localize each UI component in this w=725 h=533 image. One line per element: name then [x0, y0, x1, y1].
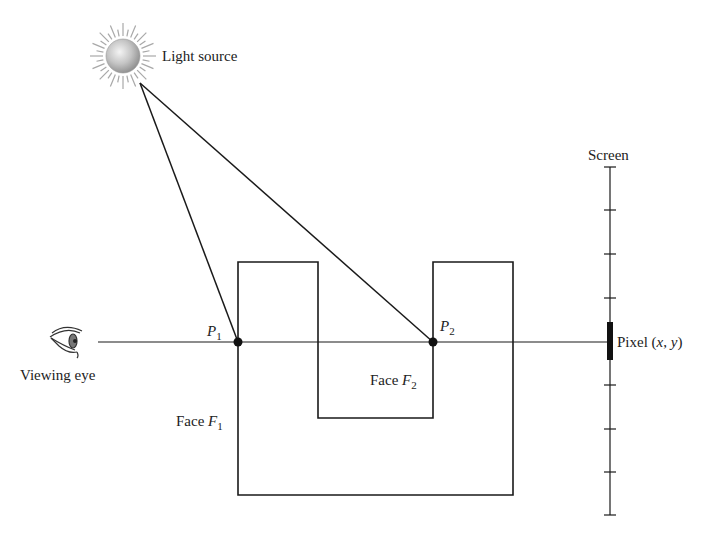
p1-label: P1: [206, 323, 222, 342]
shadow-ray-p1: [140, 83, 238, 342]
face-f2-label: Face F2: [370, 372, 417, 391]
ray-tracing-diagram: Light source P1 P2 Face F1 Face F2 Viewi…: [0, 0, 725, 533]
point-p1: [234, 338, 243, 347]
point-p2: [429, 338, 438, 347]
light-source-label: Light source: [162, 48, 238, 64]
light-source-icon: [90, 23, 156, 89]
eye-icon: [50, 327, 82, 358]
viewing-eye-label: Viewing eye: [20, 367, 96, 383]
screen-label: Screen: [588, 147, 629, 163]
pixel-marker: [607, 322, 613, 360]
shadow-ray-p2: [140, 83, 433, 342]
pixel-label: Pixel (x, y): [617, 334, 682, 351]
p2-label: P2: [439, 318, 455, 337]
face-f1-label: Face F1: [176, 413, 223, 432]
